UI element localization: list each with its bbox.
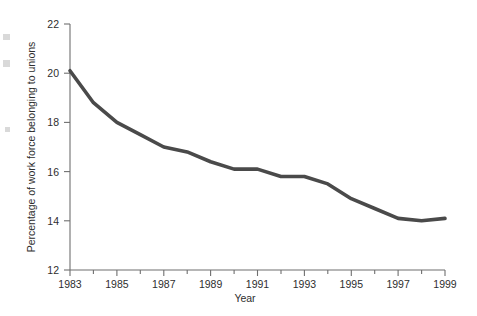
x-tick-label-1985: 1985 xyxy=(105,278,129,290)
y-tick-label-18: 18 xyxy=(47,116,59,128)
y-tick-label-16: 16 xyxy=(47,166,59,178)
y-axis-title: Percentage of work force belonging to un… xyxy=(25,42,37,253)
x-axis-title: Year xyxy=(234,292,256,304)
x-tick-label-1989: 1989 xyxy=(199,278,223,290)
figure-container: 22 20 18 16 14 12 1983 xyxy=(0,0,477,316)
x-axis-tick-labels: 1983 1985 1987 1989 1991 1993 1995 1997 … xyxy=(58,278,457,290)
x-tick-label-1993: 1993 xyxy=(293,278,317,290)
x-tick-label-1991: 1991 xyxy=(246,278,270,290)
y-tick-label-14: 14 xyxy=(47,215,59,227)
x-tick-label-1995: 1995 xyxy=(340,278,364,290)
x-tick-label-1997: 1997 xyxy=(386,278,410,290)
line-chart: 22 20 18 16 14 12 1983 xyxy=(0,0,477,316)
y-axis-tick-labels: 22 20 18 16 14 12 xyxy=(47,18,59,276)
y-axis-ticks xyxy=(64,24,70,270)
union-membership-line xyxy=(70,71,445,221)
x-tick-label-1999: 1999 xyxy=(433,278,457,290)
y-tick-label-12: 12 xyxy=(47,264,59,276)
x-tick-label-1983: 1983 xyxy=(58,278,82,290)
x-tick-label-1987: 1987 xyxy=(152,278,176,290)
y-tick-label-22: 22 xyxy=(47,18,59,30)
y-tick-label-20: 20 xyxy=(47,67,59,79)
x-axis-ticks xyxy=(70,270,445,276)
